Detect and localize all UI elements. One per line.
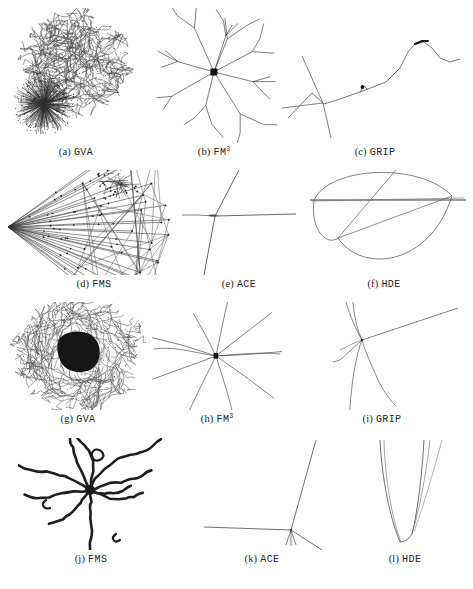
graph-node xyxy=(115,333,116,334)
caption-b: (b)FM3 xyxy=(150,146,278,158)
graph-node xyxy=(107,328,108,329)
graph-node xyxy=(52,78,53,79)
graph-node xyxy=(28,107,29,108)
fms-spider-hub xyxy=(85,485,95,495)
graph-node xyxy=(46,84,47,85)
graph-edge xyxy=(8,227,156,275)
graph-node xyxy=(42,41,43,42)
graph-node xyxy=(39,336,40,337)
graph-node xyxy=(112,223,114,225)
graph-edge xyxy=(214,72,240,114)
graph-node xyxy=(65,90,66,91)
grip-dark-node xyxy=(361,85,365,89)
caption-c-index: (c) xyxy=(355,146,367,157)
graph-node xyxy=(62,315,63,316)
graph-node xyxy=(59,307,60,308)
graph-node xyxy=(88,43,89,44)
graph-edge xyxy=(156,96,171,97)
graph-node xyxy=(111,71,112,72)
graph-node xyxy=(124,372,125,373)
graph-node xyxy=(39,379,40,380)
graph-edge xyxy=(194,28,214,72)
grip-branch-left xyxy=(282,103,323,108)
graph-node xyxy=(70,37,71,38)
graph-node xyxy=(96,37,97,38)
panel-f-hde: (f)HDE xyxy=(300,170,468,300)
grip2-junction-node xyxy=(361,339,364,342)
grip2-strand-down-left xyxy=(350,340,362,410)
panel-e-ace: (e)ACE xyxy=(182,170,296,300)
graph-node xyxy=(165,204,167,206)
graph-node xyxy=(47,85,48,86)
graph-node xyxy=(60,107,61,108)
graph-node xyxy=(28,89,29,90)
graph-node xyxy=(54,122,55,123)
graph-node xyxy=(64,113,65,114)
graph-node xyxy=(66,87,67,88)
graph-node xyxy=(33,84,34,85)
graph-node xyxy=(98,39,99,40)
graph-node xyxy=(70,29,71,30)
graph-node xyxy=(105,347,106,348)
graph-node xyxy=(99,214,101,216)
graph-node xyxy=(30,65,31,66)
graph-node xyxy=(43,122,44,123)
graph-node xyxy=(125,365,126,366)
graph-node xyxy=(45,329,46,330)
caption-h-index: (h) xyxy=(201,413,214,424)
graph-node xyxy=(105,353,106,354)
graph-node xyxy=(66,74,67,75)
graph-node xyxy=(86,328,87,329)
graph-node xyxy=(15,108,16,109)
graph-node xyxy=(40,379,41,380)
graph-node xyxy=(82,182,84,184)
graph-edge xyxy=(177,16,194,28)
graph-node xyxy=(88,28,89,29)
graph-node xyxy=(62,100,63,101)
graph-node xyxy=(69,319,70,320)
graph-node xyxy=(24,108,25,109)
graph-node xyxy=(35,119,36,120)
graph-node xyxy=(113,194,115,196)
graph-node xyxy=(69,309,70,310)
graph-edge xyxy=(114,67,133,75)
hde-lens-svg xyxy=(300,170,468,275)
graph-node xyxy=(71,64,72,65)
graph-node xyxy=(70,66,71,67)
graph-node xyxy=(40,51,41,52)
graph-node xyxy=(63,82,64,83)
graph-node xyxy=(63,90,64,91)
graph-node xyxy=(61,37,62,38)
ace-junction-node xyxy=(209,214,218,216)
graph-node xyxy=(35,130,36,131)
graph-node xyxy=(63,120,64,121)
graph-node xyxy=(45,85,46,86)
graph-node xyxy=(86,188,88,190)
graph-node xyxy=(97,174,99,176)
graph-node xyxy=(88,86,89,87)
graph-node xyxy=(57,40,58,41)
graph-edge xyxy=(8,222,161,227)
graph-node xyxy=(42,131,43,132)
graph-node xyxy=(37,112,38,113)
graph-edge xyxy=(20,362,37,379)
graph-node xyxy=(35,46,36,47)
graph-node xyxy=(27,115,28,116)
graph-node xyxy=(36,70,37,71)
graph-node xyxy=(35,91,36,92)
graph-node xyxy=(131,356,132,357)
graph-node xyxy=(60,195,62,197)
graph-node xyxy=(98,381,99,382)
graph-node xyxy=(28,104,29,105)
graph-node xyxy=(59,86,60,87)
graph-edge xyxy=(227,26,246,39)
graph-node xyxy=(42,54,43,55)
graph-node xyxy=(104,174,106,176)
grip2-strand-tip xyxy=(333,360,340,362)
graph-node xyxy=(136,191,138,193)
graph-node xyxy=(54,199,56,201)
graph-node xyxy=(73,380,74,381)
graph-node xyxy=(21,96,22,97)
plot-hde-u xyxy=(342,438,468,550)
graph-node xyxy=(60,392,61,393)
